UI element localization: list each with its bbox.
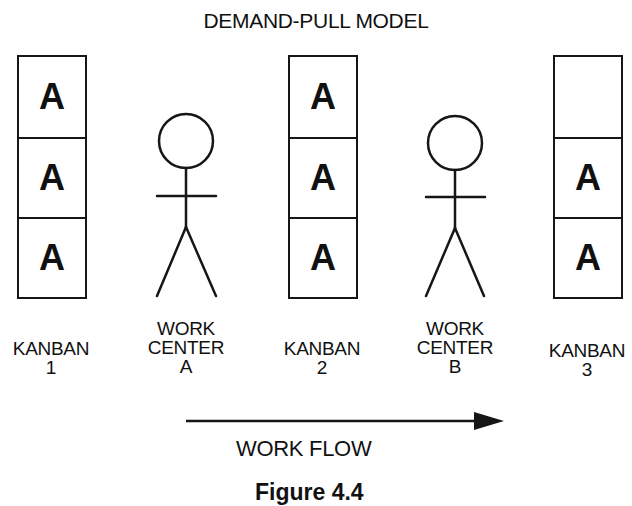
figure-caption: Figure 4.4 [255,479,364,506]
work-center-a-label: WORK CENTER A [136,319,236,376]
work-flow-arrow-icon [186,412,504,430]
work-center-b-figure-icon [426,116,485,296]
kanban-1-label: KANBAN 1 [4,339,98,377]
work-center-b-label: WORK CENTER B [405,319,505,376]
kanban-2-label: KANBAN 2 [275,339,369,377]
kanban-3-label: KANBAN 3 [540,341,632,379]
work-flow-label: WORK FLOW [236,436,371,462]
work-center-a-figure-icon [157,114,216,296]
